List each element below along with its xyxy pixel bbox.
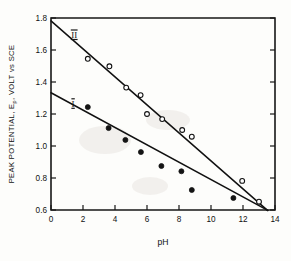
data-point-i bbox=[231, 196, 236, 201]
data-point-ii bbox=[138, 93, 143, 98]
y-axis-label: PEAK POTENTIAL, Ep, VOLT vs SCE bbox=[7, 45, 17, 184]
data-point-ii bbox=[189, 134, 194, 139]
x-tick-label: 2 bbox=[81, 215, 86, 224]
data-point-ii bbox=[145, 112, 150, 117]
chart-svg: 024681012140.60.81.01.21.41.61.8 III pH … bbox=[0, 0, 291, 261]
data-point-i bbox=[138, 150, 143, 155]
data-point-ii bbox=[160, 117, 165, 122]
data-point-ii bbox=[257, 199, 262, 204]
data-point-ii bbox=[85, 56, 90, 61]
data-point-i bbox=[85, 105, 90, 110]
x-tick-label: 12 bbox=[238, 215, 248, 224]
y-tick-label: 0.6 bbox=[36, 206, 48, 215]
series-label-ii: II bbox=[71, 30, 77, 40]
x-tick-label: 10 bbox=[206, 215, 216, 224]
y-tick-label: 1.8 bbox=[36, 14, 48, 23]
data-point-ii bbox=[180, 128, 185, 133]
data-point-ii bbox=[240, 178, 245, 183]
x-tick-label: 14 bbox=[270, 215, 280, 224]
y-tick-label: 1.0 bbox=[36, 142, 48, 151]
data-point-ii bbox=[124, 85, 129, 90]
y-tick-label: 1.4 bbox=[36, 78, 48, 87]
data-point-i bbox=[106, 126, 111, 131]
data-point-i bbox=[179, 169, 184, 174]
figure-canvas: 024681012140.60.81.01.21.41.61.8 III pH … bbox=[0, 0, 291, 261]
paper-smudges bbox=[79, 110, 190, 195]
data-point-i bbox=[159, 164, 164, 169]
x-tick-label: 0 bbox=[49, 215, 54, 224]
y-tick-label: 1.2 bbox=[36, 110, 48, 119]
x-tick-label: 6 bbox=[145, 215, 150, 224]
data-point-ii bbox=[107, 64, 112, 69]
y-axis-label-group: PEAK POTENTIAL, Ep, VOLT vs SCE bbox=[7, 45, 17, 184]
data-point-i bbox=[189, 188, 194, 193]
series-label-i: I bbox=[72, 99, 75, 109]
y-tick-label: 1.6 bbox=[36, 46, 48, 55]
data-point-i bbox=[123, 137, 128, 142]
x-axis-label: pH bbox=[158, 237, 169, 247]
x-tick-label: 8 bbox=[177, 215, 182, 224]
x-tick-label: 4 bbox=[113, 215, 118, 224]
y-tick-label: 0.8 bbox=[36, 174, 48, 183]
